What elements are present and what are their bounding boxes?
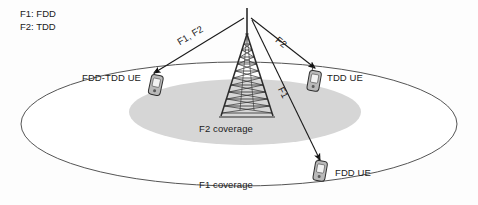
- diagram-canvas: F1: FDD F2: TDD F1, F2 F2 F1 FDD-TDD UE …: [0, 0, 478, 205]
- f1-coverage-label: F1 coverage: [199, 179, 253, 190]
- coverage-diagram-svg: [0, 0, 478, 205]
- device-label-tdd-ue: TDD UE: [327, 72, 363, 83]
- legend-line-f1: F1: FDD: [20, 8, 56, 21]
- device-label-fdd-tdd-ue: FDD-TDD UE: [82, 72, 141, 83]
- f2-coverage-label: F2 coverage: [199, 123, 253, 134]
- legend-line-f2: F2: TDD: [20, 21, 56, 34]
- device-label-fdd-ue: FDD UE: [335, 167, 371, 178]
- frequency-legend: F1: FDD F2: TDD: [20, 8, 56, 33]
